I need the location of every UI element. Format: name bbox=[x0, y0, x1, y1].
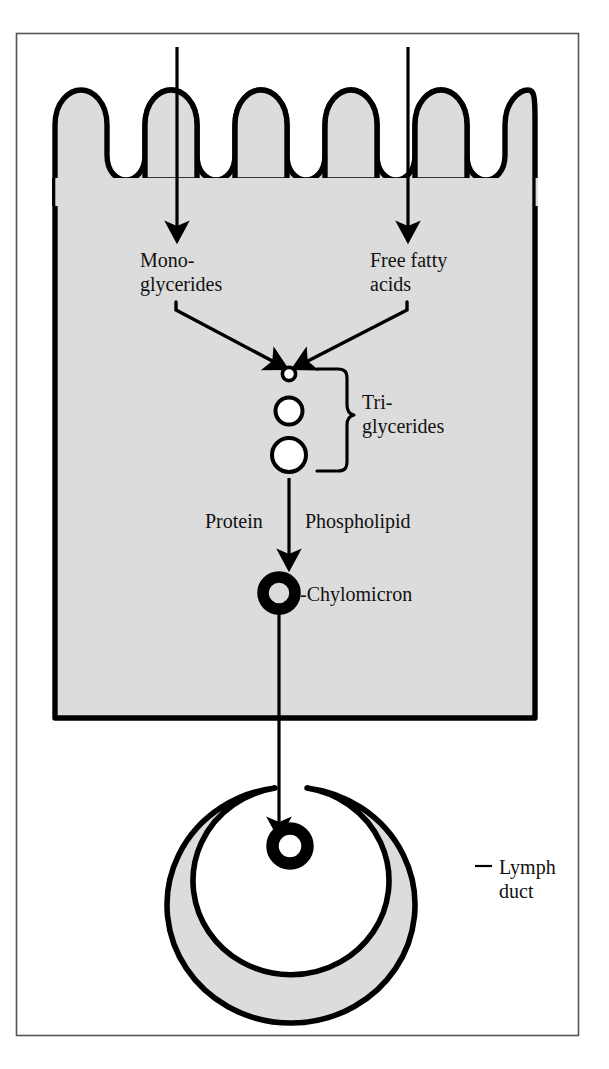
label-lymph-duct-line1: Lymph bbox=[499, 856, 556, 879]
microvillus bbox=[325, 90, 377, 180]
label-phospholipid: Phospholipid bbox=[305, 510, 411, 533]
microvillus bbox=[415, 90, 467, 180]
fat-absorption-figure: Mono- glycerides Free fatty acids Tri- g… bbox=[0, 0, 609, 1069]
triglyceride-droplet-medium bbox=[276, 398, 303, 425]
triglyceride-droplet-large bbox=[272, 438, 306, 472]
label-triglycerides-line2: glycerides bbox=[362, 415, 444, 438]
microvillus bbox=[235, 90, 287, 180]
label-lymph-duct-line2: duct bbox=[499, 880, 534, 902]
label-chylomicron: -Chylomicron bbox=[300, 583, 412, 606]
label-free-fatty-acids-line2: acids bbox=[370, 273, 411, 295]
label-protein: Protein bbox=[205, 510, 263, 532]
diagram-canvas: Mono- glycerides Free fatty acids Tri- g… bbox=[0, 0, 609, 1069]
label-free-fatty-acids-line1: Free fatty bbox=[370, 249, 447, 272]
label-triglycerides-line1: Tri- bbox=[362, 391, 392, 413]
microvilli-base-mask bbox=[52, 178, 538, 206]
microvillus bbox=[145, 90, 197, 180]
cell-left-edge-patch bbox=[52, 178, 55, 206]
cell-right-edge-patch bbox=[532, 178, 535, 206]
triglyceride-droplet-small bbox=[282, 367, 295, 380]
label-monoglycerides-line2: glycerides bbox=[140, 273, 222, 296]
label-monoglycerides-line1: Mono- bbox=[140, 249, 194, 271]
